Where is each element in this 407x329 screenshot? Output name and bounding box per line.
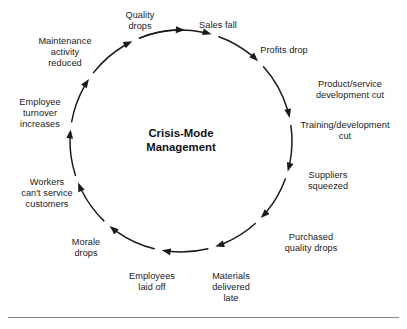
cycle-node-label: Morale drops	[60, 237, 112, 259]
cycle-arrowhead	[162, 249, 171, 256]
cycle-arrowhead	[176, 26, 185, 33]
cycle-arrowhead	[66, 129, 73, 138]
cycle-node-label: Employee turnover increases	[6, 97, 74, 130]
cycle-node-label: Sales fall	[187, 20, 249, 31]
cycle-arrowhead	[110, 226, 119, 234]
cycle-arrowhead	[123, 41, 133, 48]
cycle-arrowhead	[284, 108, 291, 118]
crisis-mode-management-diagram: Quality dropsSales fallProfits dropProdu…	[0, 0, 407, 329]
cycle-node-label: Training/development cut	[289, 120, 401, 142]
cycle-arc-segment	[117, 232, 154, 249]
cycle-arrowhead	[215, 241, 225, 247]
cycle-arrowhead	[287, 162, 294, 172]
cycle-node-label: Product/service development cut	[302, 79, 398, 101]
cycle-node-label: Employees laid off	[119, 271, 185, 293]
bottom-divider	[8, 317, 399, 318]
cycle-node-label: Materials delivered late	[202, 271, 260, 304]
cycle-arc-segment	[267, 179, 285, 211]
cycle-arc-segment	[224, 223, 256, 243]
cycle-node-label: Maintenance activity reduced	[27, 36, 103, 69]
center-title: Crisis-Mode Management	[101, 126, 261, 154]
cycle-node-label: Suppliers squeezed	[298, 170, 358, 192]
cycle-node-label: Profits drop	[249, 45, 319, 56]
cycle-arc-segment	[263, 67, 287, 109]
cycle-node-label: Quality drops	[112, 10, 168, 32]
cycle-node-label: Workers can't service customers	[8, 177, 86, 210]
cycle-arc-segment	[70, 138, 75, 175]
cycle-arrowhead	[81, 79, 89, 88]
cycle-node-label: Purchased quality drops	[272, 232, 350, 254]
cycle-arc-segment	[171, 249, 208, 252]
cycle-arc-segment	[219, 37, 251, 55]
